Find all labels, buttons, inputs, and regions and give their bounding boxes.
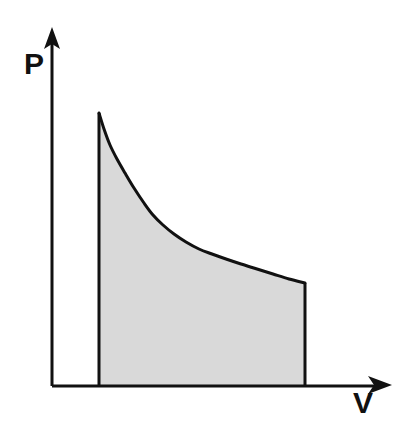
y-axis-label: P: [24, 47, 44, 80]
pv-diagram-canvas: P V: [0, 0, 410, 434]
x-axis-label: V: [353, 386, 373, 419]
pv-diagram-figure: P V: [0, 0, 410, 434]
